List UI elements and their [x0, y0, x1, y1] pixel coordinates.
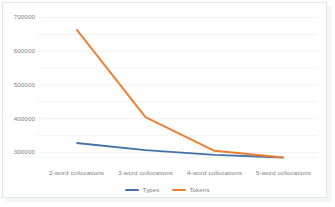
y-tick-label: 500000 [2, 81, 35, 88]
legend-swatch-types [125, 189, 139, 191]
legend-label: Types [142, 186, 159, 193]
y-tick-label: 600000 [2, 47, 35, 54]
gridlines-group [38, 18, 318, 158]
y-tick-label: 400000 [2, 115, 35, 122]
series-group [77, 29, 284, 157]
legend-label: Tokens [189, 186, 209, 193]
x-tick-label-5-word: 5-word collocations [242, 169, 325, 176]
line-chart-card: 300000400000500000600000700000 2-word co… [0, 0, 335, 207]
legend-entry-tokens[interactable]: Tokens [172, 186, 209, 193]
legend-swatch-tokens [172, 189, 186, 191]
chart-legend: TypesTokens [0, 186, 335, 193]
legend-entry-types[interactable]: Types [125, 186, 159, 193]
y-tick-label: 300000 [2, 148, 35, 155]
y-tick-label: 700000 [2, 13, 35, 20]
series-line-tokens [77, 29, 284, 157]
